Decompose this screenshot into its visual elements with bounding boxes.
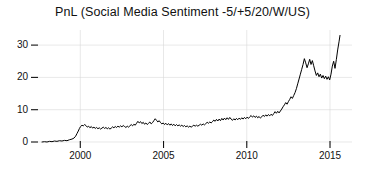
x-tick-label: 2010 xyxy=(227,150,267,161)
data-series-line xyxy=(42,35,340,142)
y-tick-label: 20 xyxy=(0,71,28,82)
chart-figure: PnL (Social Media Sentiment -5/+5/20/W/U… xyxy=(0,0,365,171)
y-tick-marks xyxy=(31,45,38,142)
x-tick-label: 2005 xyxy=(144,150,184,161)
plot-area xyxy=(0,0,365,171)
gridlines xyxy=(38,30,352,145)
y-tick-label: 0 xyxy=(0,136,28,147)
y-tick-label: 10 xyxy=(0,104,28,115)
x-tick-label: 2015 xyxy=(310,150,350,161)
x-tick-label: 2000 xyxy=(60,150,100,161)
y-tick-label: 30 xyxy=(0,39,28,50)
